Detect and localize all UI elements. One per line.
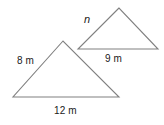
small-triangle-left-side-label: n [84,14,90,25]
small-triangle-base-label: 9 m [105,53,122,64]
geometry-figure: n 9 m 8 m 12 m [0,0,164,125]
large-triangle-base-label: 12 m [54,105,77,116]
large-triangle-left-side-label: 8 m [17,55,34,66]
